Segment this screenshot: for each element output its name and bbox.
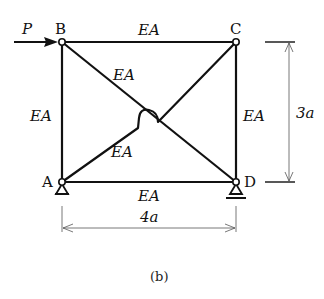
node-c — [233, 39, 239, 45]
truss-diagram: P B C A D EA EA EA EA EA EA 3a — [0, 0, 324, 299]
height-dimension-label: 3a — [296, 104, 315, 122]
node-label-d: D — [244, 173, 256, 191]
member-label-cd: EA — [242, 107, 265, 125]
node-b — [59, 39, 65, 45]
roller-support-icon — [226, 184, 246, 198]
node-label-b: B — [55, 20, 66, 38]
member-label-bd: EA — [112, 66, 135, 84]
figure-caption: (b) — [150, 269, 168, 284]
member-label-ad: EA — [137, 187, 160, 205]
node-label-c: C — [230, 20, 241, 38]
member-label-ac: EA — [110, 143, 133, 161]
width-dimension-label: 4a — [139, 208, 159, 226]
node-a — [59, 179, 65, 185]
member-label-bc: EA — [137, 21, 160, 39]
member-bd — [62, 42, 236, 182]
load-arrow — [14, 37, 58, 47]
load-label: P — [21, 20, 33, 38]
node-label-a: A — [41, 173, 53, 191]
member-label-ab: EA — [29, 107, 52, 125]
node-d — [233, 179, 239, 185]
height-dimension — [265, 42, 295, 182]
